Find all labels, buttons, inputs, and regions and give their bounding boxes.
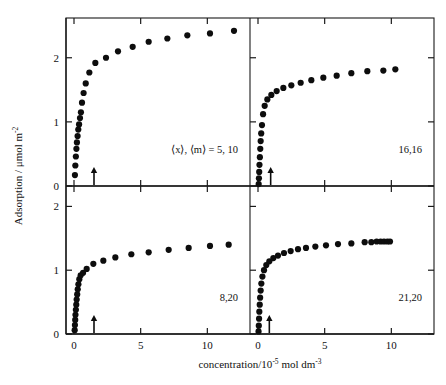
y-tick-label-1-0: 0 <box>54 328 60 340</box>
data-point <box>392 66 398 72</box>
data-point <box>288 82 294 88</box>
y-tick-label-1-1: 1 <box>54 264 60 276</box>
data-point <box>72 172 78 178</box>
data-point <box>260 111 266 117</box>
data-point <box>226 242 232 248</box>
data-point <box>256 309 262 315</box>
cmc-arrow-head <box>91 315 97 321</box>
data-point <box>184 32 190 38</box>
data-point <box>103 55 109 61</box>
data-point <box>256 169 262 175</box>
panel-bottom-right: 21,20 <box>255 238 422 334</box>
x-axis-title: concentration/10-5 mol dm-3 <box>198 357 321 370</box>
data-point <box>295 246 301 252</box>
data-point <box>92 60 98 66</box>
data-point <box>84 266 90 272</box>
data-point <box>256 316 262 322</box>
data-point <box>256 175 262 181</box>
data-point <box>72 162 78 168</box>
data-point <box>275 252 281 258</box>
x-tick-label-1-1: 5 <box>322 339 328 351</box>
data-point <box>259 273 265 279</box>
data-point <box>78 109 84 115</box>
data-point <box>268 92 274 98</box>
data-point <box>83 80 89 86</box>
panel-label-top-right: 16,16 <box>398 144 422 155</box>
panel-bottom-left: 8,20 <box>72 242 238 334</box>
panel-label-bottom-left: 8,20 <box>220 292 238 303</box>
data-point <box>256 181 262 187</box>
adsorption-isotherm-figure: 01201205100510⟨x⟩, ⟨m⟩ = 5, 1016,168,202… <box>0 0 446 385</box>
data-point <box>312 244 318 250</box>
data-point <box>73 146 79 152</box>
data-point <box>128 251 134 257</box>
data-point <box>146 39 152 45</box>
data-point <box>257 302 263 308</box>
data-point <box>348 70 354 76</box>
y-axis-title: Adsorption / μmol m-2 <box>11 126 24 225</box>
data-point <box>257 295 263 301</box>
data-point <box>380 67 386 73</box>
data-point <box>298 80 304 86</box>
y-tick-label-0-1: 1 <box>54 116 60 128</box>
data-point <box>259 122 265 128</box>
data-point <box>257 146 263 152</box>
data-point <box>90 261 96 267</box>
data-point <box>387 238 393 244</box>
data-point <box>274 88 280 94</box>
data-point <box>73 153 79 159</box>
data-point <box>303 245 309 251</box>
cmc-arrow-head <box>266 315 272 321</box>
data-point <box>323 242 329 248</box>
data-point <box>186 245 192 251</box>
data-point <box>320 75 326 81</box>
data-point <box>115 48 121 54</box>
cmc-arrow-head <box>267 167 273 173</box>
panel-label-top-left: ⟨x⟩, ⟨m⟩ = 5, 10 <box>171 144 238 155</box>
y-tick-label-0-0: 0 <box>54 180 60 192</box>
data-point <box>334 73 340 79</box>
data-point <box>146 249 152 255</box>
data-point <box>362 239 368 245</box>
data-point <box>368 239 374 245</box>
data-point <box>257 154 263 160</box>
y-tick-label-0-2: 2 <box>54 52 60 64</box>
data-point <box>164 35 170 41</box>
data-point <box>255 328 261 334</box>
x-tick-label-0-2: 10 <box>202 339 214 351</box>
data-point <box>79 100 85 106</box>
data-point <box>112 254 118 260</box>
data-point <box>364 68 370 74</box>
data-point <box>281 250 287 256</box>
data-point <box>280 85 286 91</box>
data-point <box>207 30 213 36</box>
data-point <box>258 138 264 144</box>
panel-label-bottom-right: 21,20 <box>398 292 422 303</box>
data-point <box>207 243 213 249</box>
x-tick-label-0-0: 0 <box>71 339 77 351</box>
data-point <box>258 288 264 294</box>
data-point <box>308 77 314 83</box>
data-point <box>100 258 106 264</box>
x-tick-label-1-0: 0 <box>255 339 261 351</box>
data-point <box>77 115 83 121</box>
data-point <box>335 241 341 247</box>
figure-canvas: 01201205100510⟨x⟩, ⟨m⟩ = 5, 1016,168,202… <box>0 0 446 385</box>
data-point <box>75 133 81 139</box>
data-point <box>258 281 264 287</box>
data-point <box>256 323 262 329</box>
panel-top-right: 16,16 <box>256 66 422 187</box>
panel-top-left: ⟨x⟩, ⟨m⟩ = 5, 10 <box>72 28 238 185</box>
data-point <box>130 44 136 50</box>
data-point <box>256 162 262 168</box>
x-tick-label-1-2: 10 <box>386 339 398 351</box>
x-tick-label-0-1: 5 <box>138 339 144 351</box>
data-point <box>81 90 87 96</box>
data-point <box>76 121 82 127</box>
data-point <box>86 69 92 75</box>
data-point <box>166 247 172 253</box>
y-tick-label-1-2: 2 <box>54 200 60 212</box>
data-point <box>74 139 80 145</box>
cmc-arrow-head <box>91 167 97 173</box>
data-point <box>231 28 237 34</box>
